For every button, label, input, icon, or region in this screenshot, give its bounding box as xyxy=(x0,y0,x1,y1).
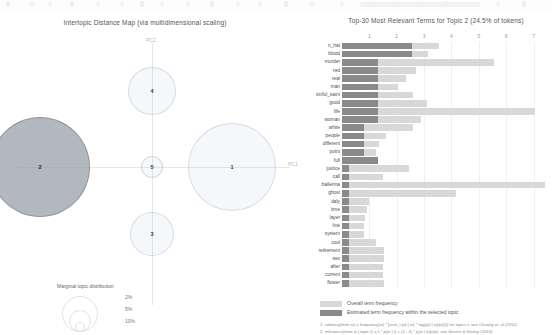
toolbar-icon[interactable] xyxy=(48,1,52,7)
term-row[interactable]: full xyxy=(342,157,550,165)
term-label[interactable]: red xyxy=(333,67,340,75)
term-label[interactable]: life xyxy=(334,108,340,116)
toolbar-icon[interactable] xyxy=(140,1,144,7)
term-label[interactable]: time xyxy=(331,206,340,214)
toolbar-icon[interactable] xyxy=(120,1,124,7)
x-tick-label: 7 xyxy=(532,33,535,39)
toolbar-icon[interactable] xyxy=(160,1,164,7)
term-label[interactable]: call xyxy=(333,173,340,181)
topic-frequency-bar xyxy=(342,92,378,99)
address-bar[interactable] xyxy=(360,2,480,7)
term-label[interactable]: woman xyxy=(325,116,340,124)
toolbar-icon[interactable] xyxy=(96,1,100,7)
term-label[interactable]: ballerina xyxy=(322,181,340,189)
term-row[interactable]: sinful_saint xyxy=(342,91,550,99)
term-label[interactable]: current xyxy=(325,271,340,279)
term-row[interactable]: layer xyxy=(342,214,550,222)
term-row[interactable]: sex xyxy=(342,255,550,263)
toolbar-icon[interactable] xyxy=(284,1,288,7)
term-row[interactable]: n_hat xyxy=(342,42,550,50)
term-label[interactable]: layer xyxy=(330,214,340,222)
toolbar-icon[interactable] xyxy=(310,1,314,7)
term-label[interactable]: sex xyxy=(333,255,340,263)
x-tick-label: 6 xyxy=(505,33,508,39)
topic-frequency-bar xyxy=(342,108,378,115)
bar-group xyxy=(342,222,550,230)
term-row[interactable]: system xyxy=(342,230,550,238)
toolbar-icon[interactable] xyxy=(496,1,500,7)
topic-frequency-bar xyxy=(342,247,349,254)
bar-group xyxy=(342,75,550,83)
term-label[interactable]: sinful_saint xyxy=(316,91,340,99)
toolbar-icon[interactable] xyxy=(6,1,10,7)
term-row[interactable]: flower xyxy=(342,279,550,287)
term-label[interactable]: cool xyxy=(331,239,340,247)
toolbar-icon[interactable] xyxy=(236,1,240,7)
bar-group xyxy=(342,181,550,189)
toolbar-icon[interactable] xyxy=(186,1,190,7)
term-row[interactable]: ghost xyxy=(342,189,550,197)
term-row[interactable]: white xyxy=(342,124,550,132)
term-row[interactable]: real xyxy=(342,75,550,83)
term-row[interactable]: woman xyxy=(342,116,550,124)
term-row[interactable]: people xyxy=(342,132,550,140)
term-label[interactable]: line xyxy=(333,222,340,230)
term-label[interactable]: blood xyxy=(328,50,340,58)
term-label[interactable]: point xyxy=(330,148,340,156)
term-row[interactable]: justice xyxy=(342,165,550,173)
footnotes: 1. saliency(term w) = frequency(w) * [su… xyxy=(320,322,552,335)
term-label[interactable]: n_hat xyxy=(328,42,340,50)
term-row[interactable]: after xyxy=(342,263,550,271)
topic-frequency-bar xyxy=(342,51,412,58)
term-row[interactable]: murder xyxy=(342,58,550,66)
term-label[interactable]: good xyxy=(329,99,340,107)
term-row[interactable]: retirement xyxy=(342,247,550,255)
marginal-distribution-title: Marginal topic distribution xyxy=(57,283,114,289)
term-row[interactable]: point xyxy=(342,148,550,156)
topic-circle-label-3: 3 xyxy=(150,231,153,237)
toolbar-icon[interactable] xyxy=(522,1,526,7)
topic-circle-label-5: 5 xyxy=(150,164,153,170)
term-label[interactable]: retirement xyxy=(318,247,340,255)
term-row[interactable]: red xyxy=(342,67,550,75)
term-label[interactable]: daly xyxy=(331,198,340,206)
term-label[interactable]: ghost xyxy=(328,189,340,197)
term-row[interactable]: man xyxy=(342,83,550,91)
term-row[interactable]: call xyxy=(342,173,550,181)
topic-frequency-bar xyxy=(342,206,349,213)
term-label[interactable]: different xyxy=(323,140,340,148)
x-tick-label: 4 xyxy=(450,33,453,39)
term-label[interactable]: white xyxy=(329,124,340,132)
toolbar-icon[interactable] xyxy=(30,1,34,7)
term-label[interactable]: man xyxy=(331,83,340,91)
legend-label-topic: Estimated term frequency within the sele… xyxy=(347,308,458,317)
term-label[interactable]: full xyxy=(334,157,340,165)
toolbar-icon[interactable] xyxy=(258,1,262,7)
term-label[interactable]: after xyxy=(330,263,340,271)
term-label[interactable]: flower xyxy=(327,279,340,287)
toolbar-icon[interactable] xyxy=(210,1,214,7)
x-tick-label: 2 xyxy=(395,33,398,39)
term-row[interactable]: daly xyxy=(342,198,550,206)
term-label[interactable]: murder xyxy=(325,58,340,66)
topic-frequency-bar xyxy=(342,174,349,181)
term-row[interactable]: current xyxy=(342,271,550,279)
term-label[interactable]: real xyxy=(332,75,340,83)
term-row[interactable]: blood xyxy=(342,50,550,58)
term-row[interactable]: time xyxy=(342,206,550,214)
term-label[interactable]: people xyxy=(326,132,340,140)
term-row[interactable]: life xyxy=(342,108,550,116)
term-row[interactable]: good xyxy=(342,99,550,107)
term-label[interactable]: justice xyxy=(326,165,340,173)
term-row[interactable]: ballerina xyxy=(342,181,550,189)
toolbar-icon[interactable] xyxy=(70,1,74,7)
term-rows: n_hatbloodmurderredrealmansinful_saintgo… xyxy=(342,42,550,288)
term-row[interactable]: cool xyxy=(342,239,550,247)
topic-circle-2[interactable] xyxy=(0,117,90,217)
term-row[interactable]: line xyxy=(342,222,550,230)
bar-group xyxy=(342,124,550,132)
topic-frequency-bar xyxy=(342,100,378,107)
term-row[interactable]: different xyxy=(342,140,550,148)
toolbar-icon[interactable] xyxy=(340,1,344,7)
term-label[interactable]: system xyxy=(325,230,340,238)
